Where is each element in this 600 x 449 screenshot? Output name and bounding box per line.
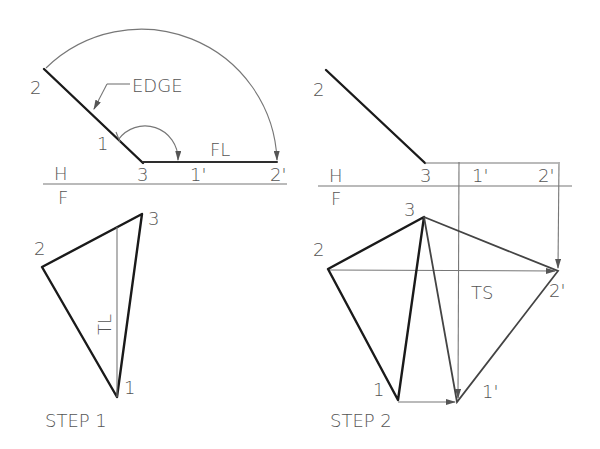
- label-point2p: 2': [538, 165, 554, 186]
- step2-fold-line: H F: [318, 165, 572, 209]
- label-point1p: 1': [472, 165, 488, 186]
- projector-1p: [458, 162, 459, 398]
- label-f: F: [58, 187, 68, 208]
- label-point1: 1: [124, 377, 135, 398]
- step1-top-view: 2 EDGE 1 FL 3 1' 2': [30, 29, 286, 185]
- step2-projectors: [328, 162, 559, 402]
- label-h: H: [54, 163, 68, 184]
- step2-caption: STEP 2: [330, 410, 392, 431]
- step2-front-view: 3 2 TS 2' 1 1': [313, 199, 565, 402]
- label-point2p: 2': [270, 164, 286, 185]
- label-point2: 2: [30, 77, 41, 98]
- step1-panel: 2 EDGE 1 FL 3 1' 2' H F 3 2 1 TL STEP 1: [30, 29, 287, 431]
- label-point2: 2: [313, 79, 324, 100]
- step1-fold-line: H F: [43, 163, 287, 208]
- label-tl: TL: [94, 314, 115, 335]
- step1-front-view: 3 2 1 TL: [34, 208, 159, 398]
- label-f: F: [331, 188, 341, 209]
- label-point1p: 1': [482, 381, 498, 402]
- edge-leader-arrow: [94, 84, 107, 109]
- label-edge: EDGE: [132, 75, 183, 96]
- projector-2p: [558, 162, 559, 268]
- label-point1p: 1': [190, 164, 206, 185]
- label-point3: 3: [137, 164, 148, 185]
- label-point3: 3: [148, 208, 159, 229]
- label-fl: FL: [210, 139, 230, 160]
- edge-line: [44, 69, 143, 163]
- label-h: H: [329, 165, 343, 186]
- front-triangle: [42, 214, 142, 397]
- label-point1: 1: [373, 379, 384, 400]
- step2-top-view: 2 3 1' 2': [313, 70, 558, 186]
- true-shape-triangle: [424, 217, 558, 402]
- label-point2p: 2': [549, 280, 565, 301]
- projector-2-horizontal: [328, 270, 555, 271]
- label-point1: 1: [97, 133, 108, 154]
- step1-caption: STEP 1: [45, 410, 107, 431]
- front-triangle: [328, 217, 424, 400]
- descriptive-geometry-diagram: 2 EDGE 1 FL 3 1' 2' H F 3 2 1 TL STEP 1: [0, 0, 600, 449]
- revolution-arc-small: [118, 126, 178, 160]
- label-point2: 2: [313, 239, 324, 260]
- edge-line: [326, 70, 425, 163]
- step2-panel: 2 3 1' 2' H F 3 2 TS 2' 1 1': [313, 70, 572, 431]
- label-point3: 3: [404, 199, 415, 220]
- label-point2: 2: [34, 238, 45, 259]
- label-ts: TS: [471, 282, 493, 303]
- label-point3: 3: [420, 165, 431, 186]
